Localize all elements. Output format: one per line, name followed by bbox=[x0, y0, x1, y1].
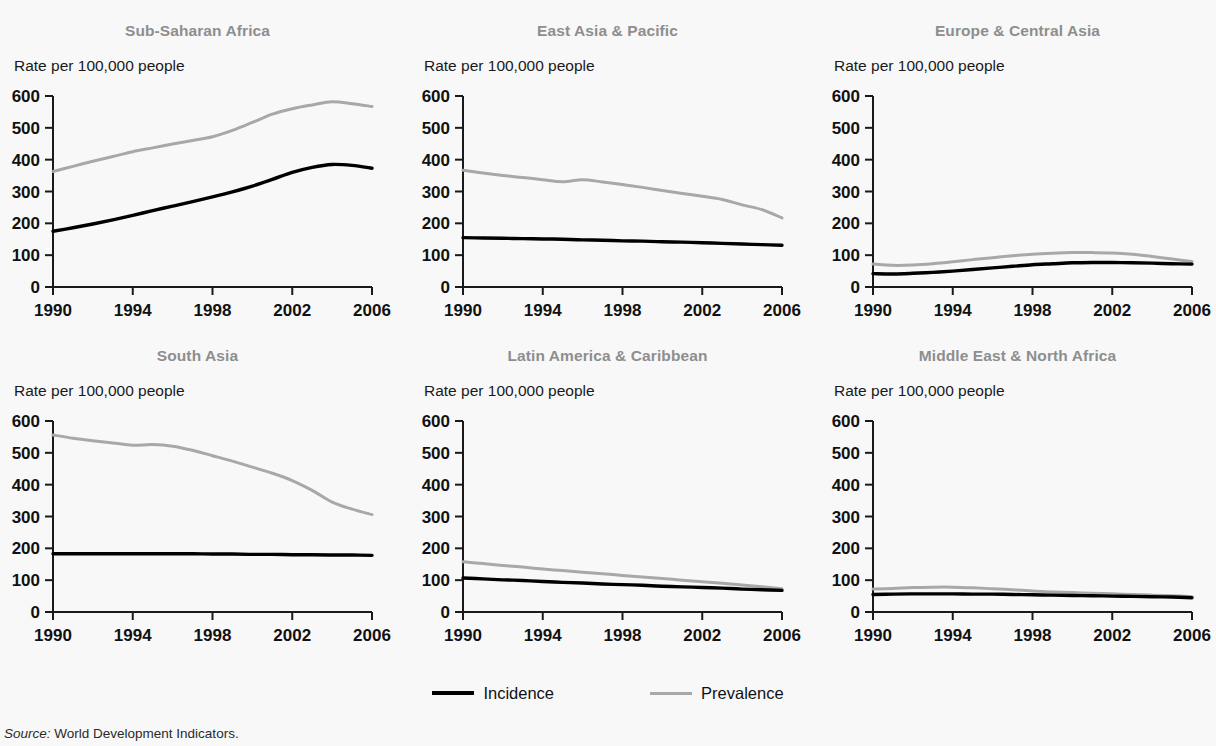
source-label: Source: bbox=[4, 726, 51, 741]
y-tick-label: 500 bbox=[422, 119, 450, 138]
axis-spine bbox=[463, 96, 782, 287]
x-tick-label: 1990 bbox=[34, 301, 72, 320]
plot-svg: 010020030040050060019901994199820022006 bbox=[0, 84, 400, 334]
y-tick-label: 0 bbox=[441, 603, 450, 622]
axis-spine bbox=[873, 96, 1192, 287]
plot-area: 010020030040050060019901994199820022006 bbox=[820, 84, 1216, 334]
y-tick-label: 600 bbox=[832, 87, 860, 106]
y-tick-label: 100 bbox=[832, 246, 860, 265]
x-tick-label: 1994 bbox=[934, 301, 972, 320]
y-tick-label: 400 bbox=[422, 151, 450, 170]
y-tick-label: 600 bbox=[12, 412, 40, 431]
series-line-prevalence bbox=[53, 435, 372, 515]
legend-item-incidence: Incidence bbox=[432, 684, 554, 703]
y-tick-label: 100 bbox=[12, 246, 40, 265]
x-tick-label: 1998 bbox=[194, 626, 232, 645]
plot-area: 010020030040050060019901994199820022006 bbox=[0, 409, 400, 659]
plot-svg: 010020030040050060019901994199820022006 bbox=[410, 84, 810, 334]
axis-spine bbox=[53, 421, 372, 612]
x-tick-label: 1994 bbox=[934, 626, 972, 645]
x-tick-label: 2002 bbox=[1093, 301, 1131, 320]
axis-spine bbox=[873, 421, 1192, 612]
panel-title: Middle East & North Africa bbox=[820, 347, 1215, 365]
y-tick-label: 300 bbox=[12, 508, 40, 527]
series-line-prevalence bbox=[463, 170, 782, 218]
panel-sub-saharan-africa: Sub-Saharan Africa Rate per 100,000 peop… bbox=[0, 14, 405, 339]
x-tick-label: 2002 bbox=[273, 301, 311, 320]
series-line-prevalence bbox=[53, 102, 372, 172]
x-tick-label: 1990 bbox=[34, 626, 72, 645]
panel-title: Latin America & Caribbean bbox=[410, 347, 805, 365]
axis-spine bbox=[53, 96, 372, 287]
panel-title: East Asia & Pacific bbox=[410, 22, 805, 40]
x-tick-label: 2006 bbox=[353, 301, 391, 320]
x-tick-label: 2006 bbox=[1173, 301, 1211, 320]
x-tick-label: 1998 bbox=[1014, 301, 1052, 320]
legend-label-incidence: Incidence bbox=[483, 684, 554, 703]
panel-title: South Asia bbox=[0, 347, 395, 365]
x-tick-label: 1994 bbox=[114, 301, 152, 320]
y-tick-label: 600 bbox=[12, 87, 40, 106]
x-tick-label: 1998 bbox=[604, 626, 642, 645]
y-tick-label: 0 bbox=[31, 603, 40, 622]
plot-svg: 010020030040050060019901994199820022006 bbox=[410, 409, 810, 659]
y-tick-label: 200 bbox=[422, 539, 450, 558]
x-tick-label: 1998 bbox=[194, 301, 232, 320]
panel-title: Europe & Central Asia bbox=[820, 22, 1215, 40]
y-tick-label: 500 bbox=[832, 444, 860, 463]
legend-item-prevalence: Prevalence bbox=[650, 684, 784, 703]
y-axis-label: Rate per 100,000 people bbox=[424, 382, 595, 400]
panel-title: Sub-Saharan Africa bbox=[0, 22, 395, 40]
y-tick-label: 400 bbox=[832, 476, 860, 495]
y-tick-label: 100 bbox=[832, 571, 860, 590]
y-tick-label: 500 bbox=[832, 119, 860, 138]
x-tick-label: 2006 bbox=[1173, 626, 1211, 645]
plot-svg: 010020030040050060019901994199820022006 bbox=[820, 84, 1216, 334]
x-tick-label: 1994 bbox=[524, 301, 562, 320]
x-tick-label: 1990 bbox=[854, 301, 892, 320]
y-tick-label: 100 bbox=[12, 571, 40, 590]
x-tick-label: 2002 bbox=[683, 626, 721, 645]
y-tick-label: 0 bbox=[851, 278, 860, 297]
y-tick-label: 300 bbox=[12, 183, 40, 202]
plot-svg: 010020030040050060019901994199820022006 bbox=[820, 409, 1216, 659]
y-tick-label: 0 bbox=[31, 278, 40, 297]
x-tick-label: 1994 bbox=[524, 626, 562, 645]
y-tick-label: 400 bbox=[422, 476, 450, 495]
y-tick-label: 300 bbox=[832, 508, 860, 527]
y-axis-label: Rate per 100,000 people bbox=[834, 57, 1005, 75]
x-tick-label: 2006 bbox=[353, 626, 391, 645]
x-tick-label: 1998 bbox=[1014, 626, 1052, 645]
series-line-incidence bbox=[463, 238, 782, 246]
plot-area: 010020030040050060019901994199820022006 bbox=[0, 84, 400, 334]
y-tick-label: 400 bbox=[12, 151, 40, 170]
y-tick-label: 400 bbox=[832, 151, 860, 170]
x-tick-label: 1990 bbox=[854, 626, 892, 645]
panel-latin-america-caribbean: Latin America & Caribbean Rate per 100,0… bbox=[410, 339, 815, 664]
y-tick-label: 200 bbox=[12, 214, 40, 233]
source-value: World Development Indicators. bbox=[54, 726, 238, 741]
y-tick-label: 400 bbox=[12, 476, 40, 495]
x-tick-label: 2002 bbox=[683, 301, 721, 320]
panel-grid: Sub-Saharan Africa Rate per 100,000 peop… bbox=[0, 14, 1216, 664]
legend-line-prevalence-icon bbox=[650, 692, 692, 695]
chart-legend: Incidence Prevalence bbox=[0, 676, 1216, 710]
x-tick-label: 2006 bbox=[763, 301, 801, 320]
y-axis-label: Rate per 100,000 people bbox=[424, 57, 595, 75]
y-tick-label: 0 bbox=[441, 278, 450, 297]
y-tick-label: 200 bbox=[422, 214, 450, 233]
x-tick-label: 2006 bbox=[763, 626, 801, 645]
y-tick-label: 300 bbox=[832, 183, 860, 202]
y-tick-label: 0 bbox=[851, 603, 860, 622]
plot-area: 010020030040050060019901994199820022006 bbox=[820, 409, 1216, 659]
plot-area: 010020030040050060019901994199820022006 bbox=[410, 409, 810, 659]
panel-europe-central-asia: Europe & Central Asia Rate per 100,000 p… bbox=[820, 14, 1216, 339]
y-tick-label: 600 bbox=[832, 412, 860, 431]
figure-root: Sub-Saharan Africa Rate per 100,000 peop… bbox=[0, 0, 1216, 746]
panel-south-asia: South Asia Rate per 100,000 people 01002… bbox=[0, 339, 405, 664]
source-note: Source: World Development Indicators. bbox=[4, 726, 239, 741]
y-axis-label: Rate per 100,000 people bbox=[14, 382, 185, 400]
y-tick-label: 500 bbox=[12, 119, 40, 138]
legend-label-prevalence: Prevalence bbox=[701, 684, 784, 703]
y-tick-label: 200 bbox=[12, 539, 40, 558]
